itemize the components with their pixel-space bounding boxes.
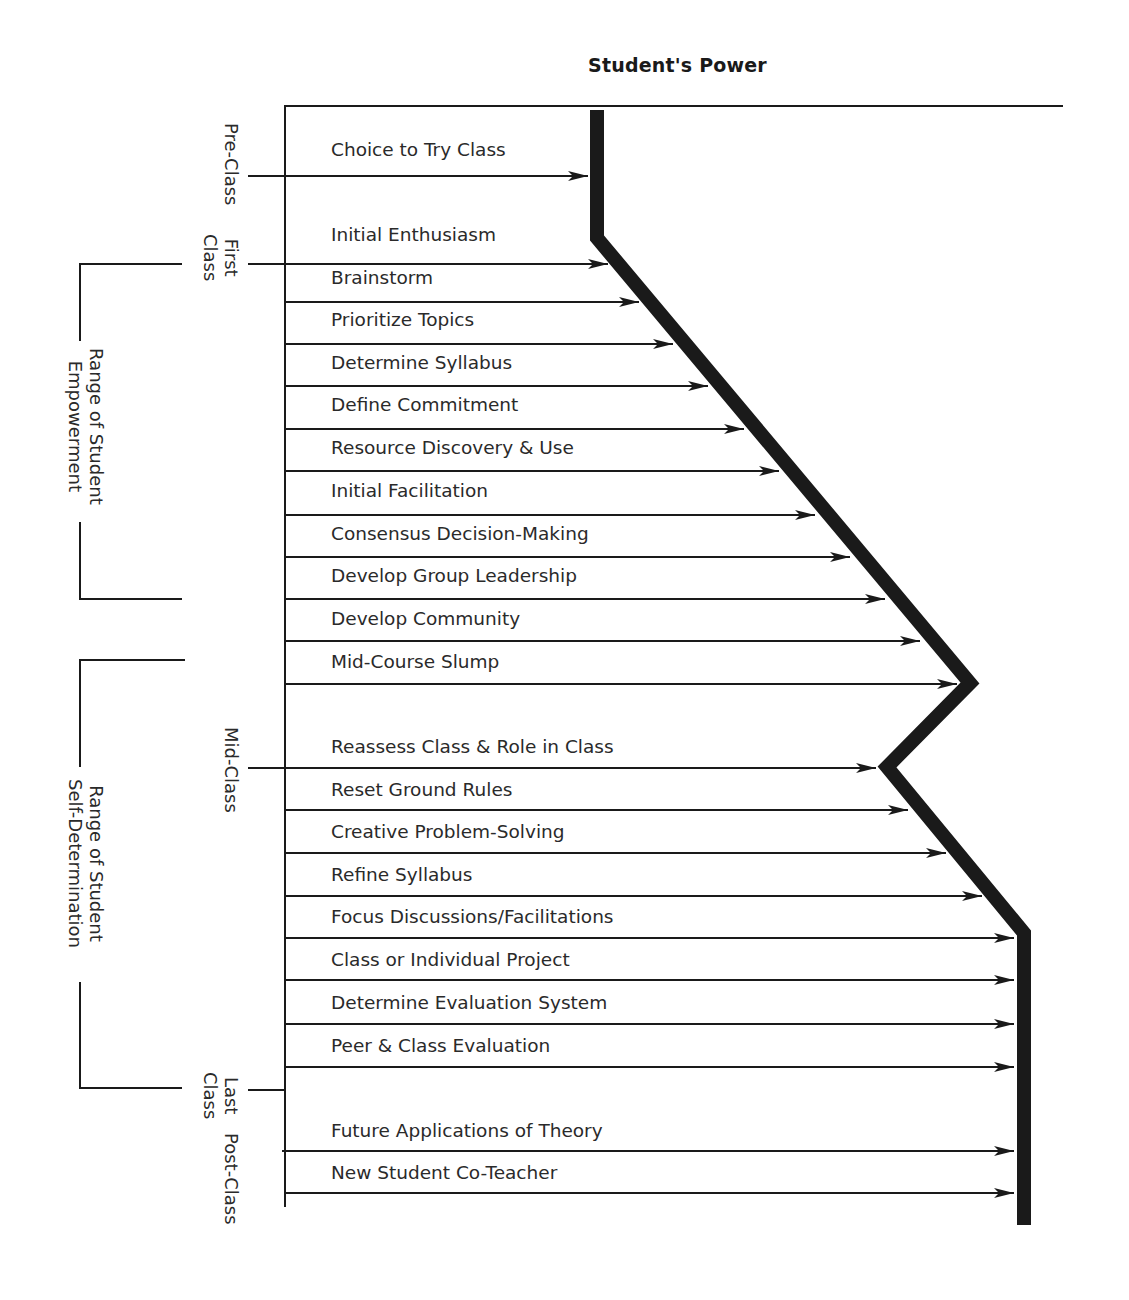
range-label-self-determination-line1: Range of Student <box>86 779 107 948</box>
step-label: Reassess Class & Role in Class <box>331 736 614 757</box>
step-label: Mid-Course Slump <box>331 651 499 672</box>
step-label: Future Applications of Theory <box>331 1120 603 1141</box>
phase-label-first-class: First Class <box>200 234 242 281</box>
step-label: Creative Problem-Solving <box>331 821 565 842</box>
phase-label-pre-class: Pre-Class <box>221 123 242 205</box>
step-label: Resource Discovery & Use <box>331 437 574 458</box>
step-label: Develop Community <box>331 608 520 629</box>
step-label: Choice to Try Class <box>331 139 506 160</box>
step-label: Reset Ground Rules <box>331 779 512 800</box>
phase-label-last-class: Last Class <box>200 1072 242 1119</box>
step-label: Develop Group Leadership <box>331 565 577 586</box>
step-label: Consensus Decision-Making <box>331 523 589 544</box>
step-label: Determine Evaluation System <box>331 992 607 1013</box>
range-label-empowerment-line1: Range of Student <box>86 348 107 505</box>
step-label: Class or Individual Project <box>331 949 570 970</box>
step-label: Brainstorm <box>331 267 433 288</box>
step-label: Determine Syllabus <box>331 352 512 373</box>
range-label-self-determination: Range of Student Self-Determination <box>65 779 107 948</box>
range-label-empowerment-line2: Empowerment <box>65 348 86 505</box>
student-power-line <box>597 110 1024 1225</box>
phase-label-last-class-line1: Last <box>221 1072 242 1119</box>
phase-label-first-class-line2: Class <box>200 234 221 281</box>
phase-label-first-class-line1: First <box>221 234 242 281</box>
step-label: Focus Discussions/Facilitations <box>331 906 614 927</box>
phase-label-mid-class: Mid-Class <box>221 727 242 813</box>
phase-label-post-class: Post-Class <box>221 1133 242 1225</box>
step-label: Initial Enthusiasm <box>331 224 496 245</box>
step-label: Initial Facilitation <box>331 480 488 501</box>
step-label: Peer & Class Evaluation <box>331 1035 550 1056</box>
step-label: New Student Co-Teacher <box>331 1162 557 1183</box>
range-label-empowerment: Range of Student Empowerment <box>65 348 107 505</box>
range-label-self-determination-line2: Self-Determination <box>65 779 86 948</box>
phase-label-last-class-line2: Class <box>200 1072 221 1119</box>
step-label: Prioritize Topics <box>331 309 474 330</box>
power-diagram-canvas <box>0 0 1129 1300</box>
step-label: Define Commitment <box>331 394 518 415</box>
step-label: Refine Syllabus <box>331 864 472 885</box>
